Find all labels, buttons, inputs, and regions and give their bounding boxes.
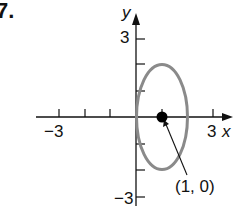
point-label: (1, 0) xyxy=(175,178,215,195)
x-axis xyxy=(36,109,233,121)
y-tick-label-neg: −3 xyxy=(114,190,133,206)
x-axis-label: x xyxy=(222,123,231,140)
x-axis-arrow-icon xyxy=(222,113,233,121)
y-axis xyxy=(132,13,145,206)
y-axis-arrow-icon xyxy=(132,13,140,25)
x-tick-label-neg: −3 xyxy=(44,123,63,140)
center-point xyxy=(157,112,168,123)
y-axis-label: y xyxy=(122,4,131,21)
y-tick-label-pos: 3 xyxy=(120,29,129,46)
x-tick-label-pos: 3 xyxy=(207,123,216,140)
